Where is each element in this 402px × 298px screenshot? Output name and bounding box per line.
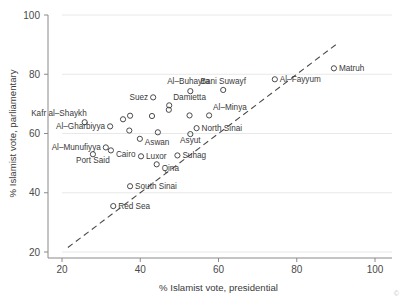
data-point-marker <box>155 130 160 135</box>
point-label: Al–Fayyum <box>280 75 321 84</box>
point-label: North Sinai <box>202 124 243 133</box>
data-point-marker <box>127 128 132 133</box>
y-tick-label-100: 100 <box>23 10 40 21</box>
point-label: Port Said <box>76 156 110 165</box>
x-tick-label-40: 40 <box>135 264 147 275</box>
data-point-marker <box>103 145 108 150</box>
data-point-marker <box>272 77 277 82</box>
x-tick-label-20: 20 <box>56 264 68 275</box>
data-point-marker <box>194 126 199 131</box>
y-tick-label-40: 40 <box>29 187 41 198</box>
x-tick-label-60: 60 <box>213 264 225 275</box>
data-point-marker <box>108 148 113 153</box>
scatter-plot-figure: 2040608010020406080100 Kafr al–ShaykhAl–… <box>0 0 402 298</box>
point-label: Asyut <box>180 136 201 145</box>
point-label: South Sinai <box>135 182 177 191</box>
point-label: Aswan <box>145 138 170 147</box>
point-label: Qina <box>162 164 180 173</box>
data-point-marker <box>149 113 154 118</box>
point-label: Al–Munufiyya <box>52 143 102 152</box>
tick-labels-group: 2040608010020406080100 <box>23 10 383 276</box>
data-point-marker <box>120 117 125 122</box>
gridlines-group <box>62 15 392 252</box>
point-label: Kafr al–Shaykh <box>31 109 87 118</box>
data-point-marker <box>151 95 156 100</box>
data-markers-group <box>82 66 336 209</box>
y-tick-label-60: 60 <box>29 128 41 139</box>
data-point-marker <box>221 87 226 92</box>
data-point-marker <box>187 113 192 118</box>
data-point-marker <box>138 154 143 159</box>
data-point-marker <box>108 124 113 129</box>
x-tick-label-80: 80 <box>291 264 303 275</box>
data-point-marker <box>137 136 142 141</box>
data-point-marker <box>127 113 132 118</box>
data-point-marker <box>127 184 132 189</box>
corner-watermark: © <box>394 290 399 297</box>
x-tick-label-100: 100 <box>367 264 384 275</box>
point-labels-group: Kafr al–ShaykhAl–GharbiyyaAl–MunufiyyaCa… <box>31 64 365 211</box>
data-point-marker <box>154 162 159 167</box>
point-label: Red Sea <box>118 202 150 211</box>
y-axis-title: % Islamist vote, parliamentary <box>7 69 18 197</box>
point-label: Damietta <box>173 93 206 102</box>
y-tick-label-80: 80 <box>29 69 41 80</box>
point-label: Cairo <box>116 150 136 159</box>
point-label: Suhag <box>182 151 206 160</box>
data-point-marker <box>111 203 116 208</box>
point-label: Bani Suwayf <box>200 77 246 86</box>
point-label: Matruh <box>339 64 365 73</box>
point-label: Suez <box>129 93 148 102</box>
plot-canvas: 2040608010020406080100 Kafr al–ShaykhAl–… <box>0 0 402 298</box>
data-point-marker <box>207 113 212 118</box>
point-label: Al–Gharbiyya <box>56 122 106 131</box>
point-label: Luxor <box>146 152 167 161</box>
x-axis-title: % Islamist vote, presidential <box>159 282 278 293</box>
axes-group <box>48 15 392 258</box>
point-label: Al–Minya <box>213 103 247 112</box>
data-point-marker <box>175 153 180 158</box>
data-point-marker <box>331 66 336 71</box>
y-tick-label-20: 20 <box>29 247 41 258</box>
